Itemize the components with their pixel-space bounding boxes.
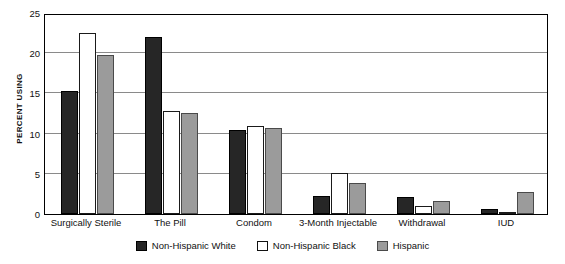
legend-label: Hispanic — [393, 240, 429, 251]
bar — [247, 126, 264, 214]
bar — [313, 196, 330, 214]
legend-swatch-icon — [257, 241, 268, 251]
bar — [499, 212, 516, 214]
chart-legend: Non-Hispanic WhiteNon-Hispanic BlackHisp… — [0, 240, 565, 251]
bar — [433, 201, 450, 214]
x-axis-tick-label: The Pill — [154, 217, 186, 228]
bar-group — [229, 15, 282, 214]
bar-chart-figure: PERCENT USING 0510152025 Surgically Ster… — [0, 0, 565, 264]
y-axis-tick-label: 0 — [6, 210, 40, 220]
y-axis-tick-label: 20 — [6, 49, 40, 59]
bar — [229, 130, 246, 214]
plot-area — [44, 14, 548, 215]
bar-group — [145, 15, 198, 214]
x-axis-tick-label: 3-Month Injectable — [299, 217, 377, 228]
bar — [349, 183, 366, 214]
bar — [145, 37, 162, 214]
bar — [415, 206, 432, 214]
bar — [331, 173, 348, 214]
bar — [265, 128, 282, 214]
bar-group — [397, 15, 450, 214]
bar-group — [313, 15, 366, 214]
y-axis-tick-label: 25 — [6, 9, 40, 19]
bar-group — [481, 15, 534, 214]
bar — [181, 113, 198, 214]
x-axis-tick-label: Condom — [236, 217, 272, 228]
bar — [517, 192, 534, 214]
x-axis-tick-labels: Surgically SterileThe PillCondom3-Month … — [44, 217, 548, 233]
legend-label: Non-Hispanic White — [152, 240, 236, 251]
bar — [61, 91, 78, 214]
y-axis-tick-labels: 0510152025 — [0, 0, 40, 264]
legend-item: Non-Hispanic White — [136, 240, 236, 251]
bar-group — [61, 15, 114, 214]
y-axis-tick-label: 5 — [6, 170, 40, 180]
bar — [79, 33, 96, 214]
y-axis-tick-label: 10 — [6, 130, 40, 140]
x-axis-tick-label: Withdrawal — [399, 217, 446, 228]
bar — [481, 209, 498, 214]
bar — [97, 55, 114, 214]
y-axis-tick-label: 15 — [6, 89, 40, 99]
legend-label: Non-Hispanic Black — [273, 240, 356, 251]
legend-item: Non-Hispanic Black — [257, 240, 356, 251]
bar-series-container — [45, 15, 547, 214]
legend-item: Hispanic — [377, 240, 429, 251]
x-axis-tick-label: Surgically Sterile — [51, 217, 122, 228]
bar — [163, 111, 180, 214]
legend-swatch-icon — [377, 241, 388, 251]
x-axis-tick-label: IUD — [498, 217, 514, 228]
bar — [397, 197, 414, 214]
legend-swatch-icon — [136, 241, 147, 251]
